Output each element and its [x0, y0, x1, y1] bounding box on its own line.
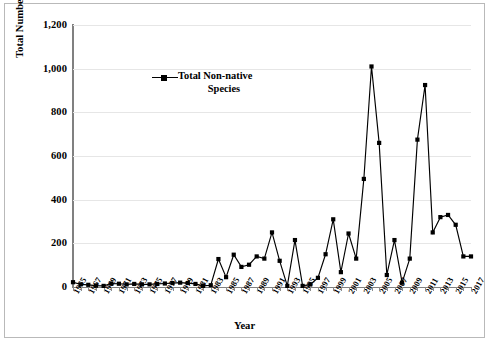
data-point-marker [415, 138, 419, 142]
x-axis-tick [326, 287, 327, 291]
data-point-marker [293, 238, 297, 242]
data-point-marker [163, 281, 167, 285]
data-point-marker [186, 281, 190, 285]
data-point-marker [270, 230, 274, 234]
data-point-marker [301, 284, 305, 288]
data-point-marker [147, 282, 151, 286]
data-point-marker [446, 213, 450, 217]
data-point-marker [193, 282, 197, 286]
y-axis-tick-label: 600 [11, 151, 67, 162]
x-axis-tick [425, 287, 426, 291]
x-axis-tick [211, 287, 212, 291]
x-axis-tick [127, 287, 128, 291]
data-point-marker [438, 215, 442, 219]
x-axis-tick [188, 287, 189, 291]
x-axis-title: Year [0, 320, 489, 331]
x-axis-tick [234, 287, 235, 291]
data-point-marker [94, 284, 98, 288]
x-axis-tick [196, 287, 197, 291]
data-point-marker [216, 257, 220, 261]
data-point-marker [385, 273, 389, 277]
data-point-marker [392, 238, 396, 242]
legend-marker-icon [152, 71, 178, 84]
legend-label-line1: Total Non-native [178, 70, 252, 81]
data-point-marker [354, 257, 358, 261]
x-axis-tick [173, 287, 174, 291]
data-point-marker [117, 282, 121, 286]
x-axis-tick [402, 287, 403, 291]
data-point-marker [308, 282, 312, 286]
x-axis-tick [379, 287, 380, 291]
data-point-marker [140, 282, 144, 286]
x-axis-tick [417, 287, 418, 291]
x-axis-tick [440, 287, 441, 291]
data-point-marker [155, 282, 159, 286]
x-axis-tick [88, 287, 89, 291]
data-point-marker [262, 257, 266, 261]
x-axis-tick [395, 287, 396, 291]
data-point-marker [369, 64, 373, 68]
data-point-marker [285, 284, 289, 288]
data-point-marker [255, 254, 259, 258]
x-axis-tick [295, 287, 296, 291]
x-axis-tick [241, 287, 242, 291]
legend-square-marker [161, 75, 167, 81]
x-axis-tick [272, 287, 273, 291]
data-point-marker [86, 283, 90, 287]
data-point-marker [431, 230, 435, 234]
chart-legend: Total Non-native Species [152, 70, 283, 95]
data-point-marker [408, 257, 412, 261]
data-point-marker [423, 83, 427, 87]
data-point-marker [109, 281, 113, 285]
data-point-marker [102, 284, 106, 288]
y-axis-tick-label: 800 [11, 107, 67, 118]
x-axis-tick [134, 287, 135, 291]
plot-area [73, 25, 471, 287]
x-axis-tick [333, 287, 334, 291]
y-axis-tick-label: 200 [11, 238, 67, 249]
x-axis-tick [249, 287, 250, 291]
data-point-marker [346, 231, 350, 235]
data-point-marker [132, 282, 136, 286]
x-axis-tick [372, 287, 373, 291]
data-point-marker [461, 254, 465, 258]
x-axis-tick [218, 287, 219, 291]
data-point-marker [377, 141, 381, 145]
data-point-marker [400, 281, 404, 285]
x-axis-tick [433, 287, 434, 291]
series-total-non-native-species [73, 25, 471, 287]
x-axis-tick [341, 287, 342, 291]
x-axis-tick [226, 287, 227, 291]
x-axis-tick [264, 287, 265, 291]
x-axis-tick [165, 287, 166, 291]
data-point-marker [339, 270, 343, 274]
x-axis-tick [410, 287, 411, 291]
data-point-marker [454, 223, 458, 227]
y-axis-tick-label: 1,000 [11, 64, 67, 75]
data-point-marker [209, 283, 213, 287]
data-point-marker [323, 252, 327, 256]
x-axis-tick [349, 287, 350, 291]
data-point-marker [224, 275, 228, 279]
x-axis-tick [142, 287, 143, 291]
x-axis-tick [81, 287, 82, 291]
legend-label-line2: Species [178, 83, 270, 96]
y-axis-tick-label: 1,200 [11, 20, 67, 31]
data-point-marker [79, 282, 83, 286]
x-axis-tick [387, 287, 388, 291]
x-axis-tick [456, 287, 457, 291]
x-axis-tick [280, 287, 281, 291]
data-point-marker [178, 281, 182, 285]
x-axis-tick [318, 287, 319, 291]
data-point-marker [239, 265, 243, 269]
x-axis-tick [150, 287, 151, 291]
data-point-marker [71, 280, 75, 284]
x-axis-tick [448, 287, 449, 291]
x-axis-tick [463, 287, 464, 291]
data-point-marker [124, 282, 128, 286]
y-axis-tick-label: 0 [11, 282, 67, 293]
x-axis-tick [73, 287, 74, 291]
x-axis-tick [180, 287, 181, 291]
data-point-marker [316, 276, 320, 280]
data-point-marker [469, 254, 473, 258]
